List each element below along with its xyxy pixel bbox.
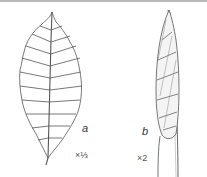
panel-b-label: b (142, 125, 148, 137)
panel-b-scale: ×2 (137, 153, 147, 163)
illustration (0, 0, 207, 177)
panel-a-label: a (82, 122, 88, 134)
leaf-drawing (20, 12, 82, 165)
panel-a-scale: ×⅓ (75, 150, 88, 160)
bud-drawing (156, 10, 179, 177)
